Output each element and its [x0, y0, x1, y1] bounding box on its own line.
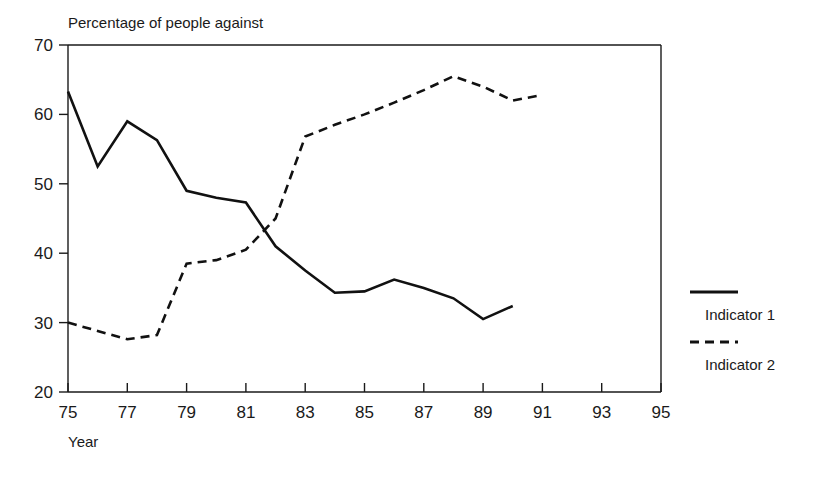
x-axis-label: Year [68, 433, 98, 450]
x-tick-label: 85 [355, 403, 374, 422]
x-tick-label: 77 [118, 403, 137, 422]
series-line-indicator-1 [68, 91, 513, 319]
x-tick-label: 91 [533, 403, 552, 422]
y-tick-label: 60 [34, 105, 53, 124]
x-tick-label: 89 [474, 403, 493, 422]
legend-label-indicator-1: Indicator 1 [705, 306, 775, 323]
x-tick-label: 79 [177, 403, 196, 422]
data-series-group [68, 76, 542, 339]
x-tick-label: 95 [652, 403, 671, 422]
x-tick-label: 81 [236, 403, 255, 422]
y-tick-label: 30 [34, 314, 53, 333]
x-tick-label: 75 [59, 403, 78, 422]
x-tick-label: 83 [296, 403, 315, 422]
chart-container: Percentage of people against 20304050607… [0, 0, 825, 477]
x-axis-ticks: 7577798183858789919395 [59, 383, 671, 422]
x-tick-label: 87 [414, 403, 433, 422]
line-chart-svg: Percentage of people against 20304050607… [0, 0, 825, 477]
chart-legend: Indicator 1 Indicator 2 [690, 292, 775, 373]
plot-axes [68, 45, 661, 392]
chart-title: Percentage of people against [68, 14, 264, 31]
series-line-indicator-2 [68, 76, 542, 339]
y-tick-label: 40 [34, 244, 53, 263]
y-tick-label: 50 [34, 175, 53, 194]
y-tick-label: 70 [34, 36, 53, 55]
y-tick-label: 20 [34, 383, 53, 402]
y-axis-ticks: 203040506070 [34, 36, 68, 402]
legend-label-indicator-2: Indicator 2 [705, 356, 775, 373]
x-tick-label: 93 [592, 403, 611, 422]
